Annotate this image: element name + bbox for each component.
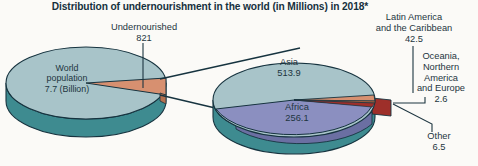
label-other-value: 6.5 (412, 142, 466, 153)
label-asia-name: Asia (280, 57, 298, 67)
label-africa-name: Africa (285, 102, 309, 112)
label-undernourished: Undernourished 821 (84, 22, 204, 43)
label-other: Other 6.5 (412, 131, 466, 153)
label-latin-america-line1: Latin America (356, 12, 472, 23)
label-world-population: World population 7.7 (Billion) (18, 63, 116, 94)
chart-container: Distribution of undernourishment in the … (0, 0, 478, 166)
label-latin-america-line2: and the Caribbean (356, 23, 472, 34)
label-asia: Asia 513.9 (246, 57, 332, 78)
label-world-population-line3: 7.7 (Billion) (18, 84, 116, 94)
label-asia-value: 513.9 (246, 68, 332, 79)
label-undernourished-name: Undernourished (111, 22, 177, 32)
label-latin-america-value: 42.5 (356, 34, 472, 45)
label-oceania-line4: and Europe (404, 83, 478, 94)
label-africa-value: 256.1 (256, 113, 338, 124)
label-latin-america: Latin America and the Caribbean 42.5 (356, 12, 472, 45)
label-oceania-line3: America (404, 73, 478, 84)
label-oceania: Oceania, Northern America and Europe 2.6 (404, 51, 478, 105)
label-oceania-line2: Northern (404, 62, 478, 73)
label-world-population-line2: population (18, 73, 116, 83)
label-world-population-line1: World (18, 63, 116, 73)
label-undernourished-value: 821 (84, 33, 204, 44)
label-oceania-line1: Oceania, (404, 51, 478, 62)
label-other-name: Other (412, 131, 466, 142)
label-africa: Africa 256.1 (256, 102, 338, 123)
label-oceania-value: 2.6 (404, 94, 478, 105)
